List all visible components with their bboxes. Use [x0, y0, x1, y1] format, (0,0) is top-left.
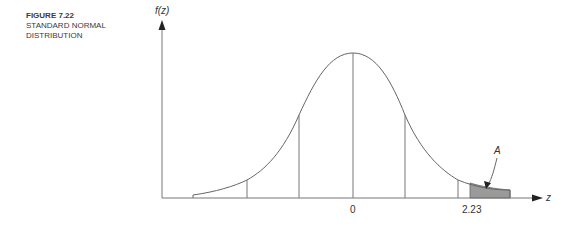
- y-axis-arrow-icon: [159, 20, 166, 30]
- x-axis-label: z: [545, 192, 551, 203]
- shaded-area-label: A: [493, 145, 501, 156]
- x-axis-arrow-icon: [532, 195, 543, 202]
- annotation-arrow: [488, 158, 497, 185]
- bell-curve: [193, 53, 510, 198]
- tick-label-2.23: 2.23: [462, 204, 482, 215]
- normal-distribution-chart: f(z) z A 0 2.23: [0, 0, 588, 231]
- tick-label-0: 0: [350, 204, 356, 215]
- y-axis-label: f(z): [155, 5, 169, 16]
- shaded-area-A: [470, 183, 510, 198]
